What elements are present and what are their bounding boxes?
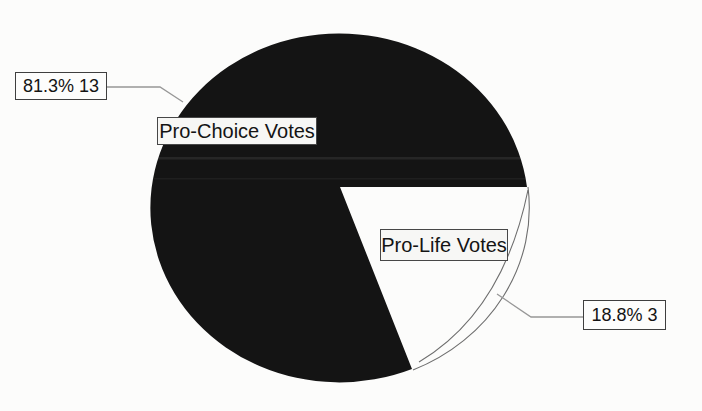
pro-life-label-text: Pro-Life Votes [381,235,507,255]
pro-choice-value-text: 81.3% 13 [23,77,99,95]
pro-choice-slice-label: Pro-Choice Votes [157,117,317,145]
pro-life-value-callout: 18.8% 3 [583,300,666,330]
pro-choice-slice [150,33,527,382]
leader-line-pro-life [497,294,583,317]
pro-life-slice-label: Pro-Life Votes [380,229,508,261]
pro-choice-value-callout: 81.3% 13 [15,72,107,100]
pro-life-value-text: 18.8% 3 [591,306,657,324]
pie-chart-figure: 81.3% 13 Pro-Choice Votes Pro-Life Votes… [0,0,702,411]
pro-life-slice-outer-arc [413,187,529,370]
pro-life-slice-inner-arc [419,190,528,362]
pro-choice-label-text: Pro-Choice Votes [159,121,315,141]
pie-chart-canvas [0,0,702,411]
leader-line-pro-choice [107,87,183,102]
